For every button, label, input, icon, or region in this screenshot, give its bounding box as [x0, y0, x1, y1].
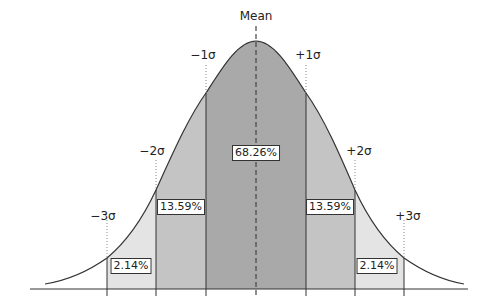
box-right-2-percent: 2.14%: [357, 258, 398, 274]
box-center-percent: 68.26%: [232, 145, 280, 161]
box-right-13-percent: 13.59%: [306, 199, 354, 215]
label-minus3-sigma: −3σ: [90, 209, 115, 223]
label-plus3-sigma: +3σ: [395, 209, 420, 223]
label-minus2-sigma: −2σ: [139, 144, 164, 158]
label-mean: Mean: [240, 9, 273, 23]
box-left-2-percent: 2.14%: [111, 258, 152, 274]
label-plus2-sigma: +2σ: [346, 144, 371, 158]
label-plus1-sigma: +1σ: [295, 48, 320, 62]
label-minus1-sigma: −1σ: [190, 48, 215, 62]
box-left-13-percent: 13.59%: [157, 199, 205, 215]
